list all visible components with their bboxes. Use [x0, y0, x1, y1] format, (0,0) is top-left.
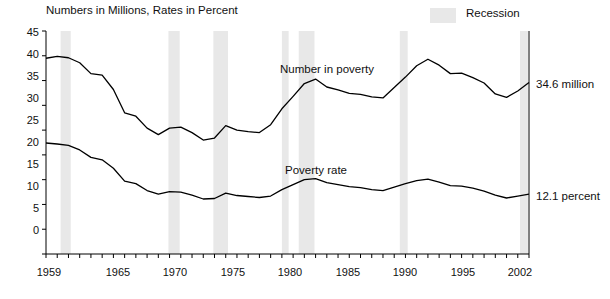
y-tick-35: 35: [17, 70, 39, 82]
recession-band: [168, 31, 179, 254]
y-tick-40: 40: [17, 48, 39, 60]
chart-plot-area: [0, 0, 610, 299]
annotation-poverty-rate: Poverty rate: [285, 164, 347, 176]
x-tick-1990: 1990: [382, 266, 428, 278]
y-tick-15: 15: [17, 158, 39, 170]
y-tick-25: 25: [17, 114, 39, 126]
y-tick-10: 10: [17, 180, 39, 192]
poverty-chart: Numbers in Millions, Rates in Percent Re…: [0, 0, 610, 299]
x-tick-1985: 1985: [325, 266, 371, 278]
x-tick-1995: 1995: [440, 266, 486, 278]
y-tick-45: 45: [17, 26, 39, 38]
annotation-number-in-poverty: Number in poverty: [280, 63, 374, 75]
y-tick-5: 5: [17, 202, 39, 214]
x-tick-1980: 1980: [267, 266, 313, 278]
x-tick-1970: 1970: [152, 266, 198, 278]
y-tick-20: 20: [17, 136, 39, 148]
recession-band: [61, 31, 71, 254]
x-tick-2002: 2002: [497, 266, 543, 278]
recession-band: [213, 31, 228, 254]
recession-band: [400, 31, 408, 254]
y-tick-30: 30: [17, 92, 39, 104]
x-tick-1959: 1959: [26, 266, 72, 278]
x-tick-1965: 1965: [95, 266, 141, 278]
end-label-rate: 12.1 percent: [536, 190, 600, 202]
x-tick-1975: 1975: [210, 266, 256, 278]
recession-band: [520, 31, 528, 254]
end-label-number: 34.6 million: [536, 78, 594, 90]
y-tick-0: 0: [17, 224, 39, 236]
